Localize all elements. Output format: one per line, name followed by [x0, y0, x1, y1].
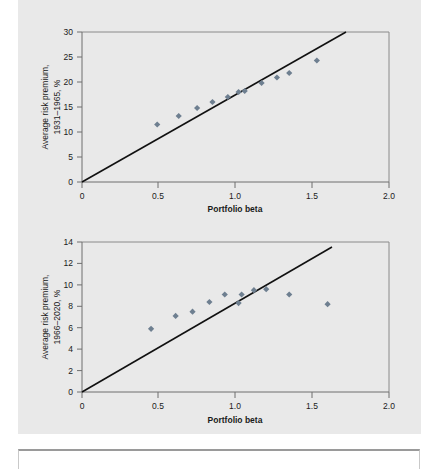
x-tick-label: 0	[80, 191, 85, 201]
data-point	[251, 287, 257, 293]
x-tick-labels-top: 0 0.5 1.0 1.5 2.0	[80, 191, 396, 201]
y-axis-title-line1: Average risk premium,	[40, 65, 50, 150]
data-point	[189, 309, 195, 315]
x-axis-title: Portfolio beta	[208, 415, 263, 425]
x-tick-label: 2.0	[383, 401, 395, 411]
data-point	[286, 291, 292, 297]
data-points-top	[154, 57, 320, 127]
y-tick-label: 20	[64, 77, 74, 87]
x-tick-label: 2.0	[383, 191, 395, 201]
y-tick-label: 2	[68, 366, 73, 376]
chart-bottom-svg: 14 12 10 8 6 4 2 0 0	[18, 215, 421, 434]
y-tick-label: 14	[64, 237, 74, 247]
data-point	[239, 291, 245, 297]
x-tick-label: 0	[80, 401, 85, 411]
y-axis-title-line1: Average risk premium,	[40, 275, 50, 360]
y-tick-label: 10	[64, 127, 74, 137]
x-axis-title: Portfolio beta	[208, 204, 263, 214]
y-tick-label: 10	[64, 280, 74, 290]
x-tick-label: 0.5	[152, 191, 164, 201]
data-point	[225, 94, 231, 100]
plot-frame-bottom	[82, 242, 389, 392]
data-point	[206, 299, 212, 305]
data-point	[154, 121, 160, 127]
data-point	[148, 326, 154, 332]
data-point	[274, 74, 280, 80]
x-tick-label: 0.5	[152, 401, 164, 411]
x-tick-label: 1.0	[229, 401, 241, 411]
data-point	[173, 313, 179, 319]
y-tick-label: 5	[68, 152, 73, 162]
x-tick-label: 1.5	[306, 401, 318, 411]
data-point	[194, 105, 200, 111]
y-tick-label: 0	[68, 177, 73, 187]
y-tick-label: 0	[68, 387, 73, 397]
x-tick-labels-bottom: 0 0.5 1.0 1.5 2.0	[80, 401, 396, 411]
data-point	[286, 70, 292, 76]
x-ticks-bottom	[82, 392, 389, 398]
y-tick-label: 8	[68, 301, 73, 311]
data-point	[314, 57, 320, 63]
data-point	[235, 300, 241, 306]
y-axis-title-line2: 1931–1965, %	[52, 79, 62, 134]
y-tick-label: 4	[68, 344, 73, 354]
y-tick-label: 25	[64, 52, 74, 62]
chart-top: 30 25 20 15 10 5 0 0 0.5	[18, 0, 421, 215]
figure-bottom-rule	[18, 449, 420, 469]
y-tick-label: 6	[68, 323, 73, 333]
figure-panel: 30 25 20 15 10 5 0 0 0.5	[18, 0, 421, 434]
x-tick-label: 1.5	[306, 191, 318, 201]
market-fit-line-top	[82, 32, 346, 182]
data-points-bottom	[148, 286, 331, 332]
market-fit-line-bottom	[82, 247, 332, 392]
y-tick-labels-bottom: 14 12 10 8 6 4 2 0	[64, 237, 74, 397]
y-tick-label: 30	[64, 27, 74, 37]
data-point	[325, 301, 331, 307]
chart-bottom: 14 12 10 8 6 4 2 0 0	[18, 215, 421, 430]
y-ticks-bottom	[77, 242, 82, 392]
data-point	[222, 291, 228, 297]
x-ticks-top	[82, 182, 389, 188]
plot-frame-top	[82, 32, 389, 182]
data-point	[176, 113, 182, 119]
y-ticks-top	[77, 32, 82, 182]
y-tick-labels-top: 30 25 20 15 10 5 0	[64, 27, 74, 187]
y-tick-label: 15	[64, 102, 74, 112]
chart-top-svg: 30 25 20 15 10 5 0 0 0.5	[18, 0, 421, 215]
y-axis-title-line2: 1966–2020, %	[52, 289, 62, 344]
data-point	[209, 99, 215, 105]
x-tick-label: 1.0	[229, 191, 241, 201]
y-tick-label: 12	[64, 258, 74, 268]
